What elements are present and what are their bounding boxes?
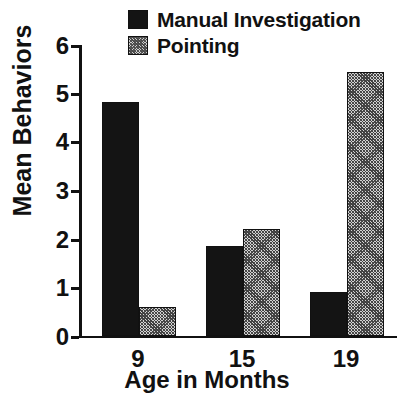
y-axis-title: Mean Behaviors: [10, 11, 35, 231]
y-tick-mark-3: [71, 190, 79, 193]
bar-manual-investigation-15: [206, 246, 243, 336]
x-axis-line: [79, 336, 397, 339]
y-tick-mark-1: [71, 287, 79, 290]
bar-group-19: [310, 46, 384, 336]
y-tick-label-1: 1: [56, 276, 69, 300]
y-tick-mark-2: [71, 239, 79, 242]
y-tick-mark-6: [71, 45, 79, 48]
y-tick-label-3: 3: [56, 179, 69, 203]
legend-label-manual-investigation: Manual Investigation: [157, 9, 361, 30]
y-tick-label-6: 6: [56, 34, 69, 58]
legend-swatch-solid-icon: [128, 10, 148, 29]
bar-group-15: [206, 46, 280, 336]
bar-pointing-19: [347, 72, 384, 336]
legend-item-manual-investigation: Manual Investigation: [128, 6, 361, 32]
bar-groups: [82, 46, 397, 336]
bar-manual-investigation-9: [102, 102, 139, 336]
y-tick-label-0: 0: [56, 325, 69, 349]
y-tick-label-4: 4: [56, 130, 69, 154]
bar-pointing-9: [139, 307, 176, 336]
y-tick-label-5: 5: [56, 82, 69, 106]
x-axis-title: Age in Months: [0, 368, 414, 392]
plot-area: 0 1 2 3 4 5 6: [79, 45, 397, 338]
bar-chart: Manual Investigation Pointing 0 1 2 3 4 …: [0, 0, 414, 407]
y-tick-mark-4: [71, 141, 79, 144]
y-tick-mark-0: [71, 336, 79, 339]
bar-pointing-15: [243, 229, 280, 336]
y-tick-label-2: 2: [56, 228, 69, 252]
bar-group-9: [102, 46, 176, 336]
bar-manual-investigation-19: [310, 292, 347, 336]
y-tick-mark-5: [71, 93, 79, 96]
